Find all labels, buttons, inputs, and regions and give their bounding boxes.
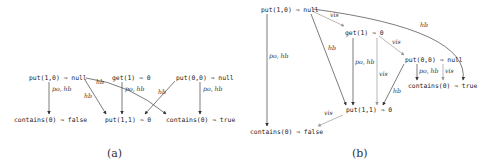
node-put00: put(0,0) ⇒ null	[176, 74, 234, 82]
node-put10: put(1,0) ⇒ null	[29, 74, 87, 82]
edge-label: hb	[328, 44, 336, 51]
edge-label: hb	[84, 92, 92, 99]
figure-canvas: po, hb hb hb po, hb hb po, hb put(1,0) ⇒…	[0, 0, 482, 168]
edge-label: po, hb	[203, 85, 223, 93]
node-put11: put(1,1) ⇒ 0	[105, 116, 151, 124]
edge-label: hb	[393, 87, 401, 94]
edge-label: po, hb	[125, 85, 145, 93]
node-contains-true: contains(0) ⇒ true	[166, 116, 235, 124]
node-get1: get(1) ⇒ 0	[345, 29, 384, 37]
figure-b: po, hb vis hb hb vis po, hb vis hb po, h…	[250, 6, 477, 160]
caption-b: (b)	[352, 147, 368, 160]
node-put00: put(0,0) ⇒ null	[405, 56, 463, 64]
node-put11: put(1,1) ⇒ 0	[346, 106, 392, 114]
figure-a: po, hb hb hb po, hb hb po, hb put(1,0) ⇒…	[14, 74, 235, 160]
node-get1: get(1) ⇒ 0	[112, 74, 151, 82]
caption-a: (a)	[107, 147, 122, 160]
edge-label: hb	[158, 88, 166, 95]
edge-label: po, hb	[269, 52, 289, 60]
edge-label: po, hb	[52, 85, 72, 93]
edge-label: vis	[445, 67, 454, 74]
edge-label: po, hb	[355, 58, 375, 66]
edge-label: vis	[324, 109, 333, 116]
edge-label: vis	[392, 38, 401, 45]
node-contains-false: contains(0) ⇒ false	[14, 116, 87, 124]
edge-label: po, hb	[419, 67, 439, 75]
edge-b-put11-containsfalse	[318, 115, 343, 126]
edge-label: vis	[379, 70, 388, 77]
node-put10: put(1,0) ⇒ null	[261, 6, 319, 14]
edge-b-put10-put11	[311, 14, 346, 105]
node-contains-false: contains(0) ⇒ false	[250, 128, 323, 136]
edge-label: hb	[420, 21, 428, 28]
edge-label: hb	[96, 78, 104, 85]
node-contains-true: contains(0) ⇒ true	[408, 82, 477, 90]
